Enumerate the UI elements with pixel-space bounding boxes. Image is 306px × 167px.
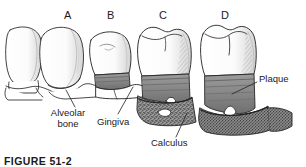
label-alveolar-bone: Alveolar bone — [39, 108, 97, 129]
panel-letter-b: B — [107, 10, 115, 21]
figure-caption: FIGURE 51-2 — [4, 155, 72, 167]
calculus-ledge-right-d — [268, 108, 292, 132]
label-alveolar-bone-line2: bone — [57, 118, 78, 129]
panel-letter-c: C — [159, 10, 167, 21]
tooth-group-c — [137, 27, 196, 126]
label-alveolar-bone-line1: Alveolar — [51, 107, 85, 118]
panel-letter-a: A — [64, 10, 72, 21]
label-plaque: Plaque — [259, 74, 289, 85]
label-gingiva: Gingiva — [97, 117, 129, 128]
label-calculus: Calculus — [151, 138, 187, 149]
bone-defect-c — [158, 109, 171, 117]
figure-container: A B C D Alveolar bone Gingiva Calculus P… — [0, 0, 306, 167]
panel-letter-d: D — [221, 10, 229, 21]
tooth-b-crown — [90, 32, 131, 75]
